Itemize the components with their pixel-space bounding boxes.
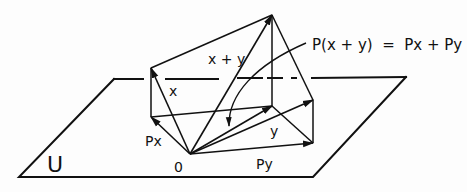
label-equation: P(x + y) = Px + Py: [312, 36, 462, 54]
label-px: Px: [145, 133, 162, 149]
vector-px-plus-py: [190, 106, 272, 154]
vector-py: [190, 143, 313, 154]
labels: P(x + y) = Px + Py x + y x y Px Py 0 U: [47, 36, 462, 177]
subspace-plane-U: [19, 77, 406, 177]
vector-x-plus-y: [190, 15, 272, 154]
projection-diagram: P(x + y) = Px + Py x + y x y Px Py 0 U: [0, 0, 467, 192]
label-x: x: [169, 83, 177, 99]
label-subspace-U: U: [47, 152, 63, 177]
label-origin: 0: [174, 159, 183, 175]
label-y: y: [270, 123, 278, 139]
diagram-canvas: P(x + y) = Px + Py x + y x y Px Py 0 U: [0, 0, 467, 192]
label-x-plus-y: x + y: [208, 51, 245, 67]
label-py: Py: [256, 156, 273, 172]
